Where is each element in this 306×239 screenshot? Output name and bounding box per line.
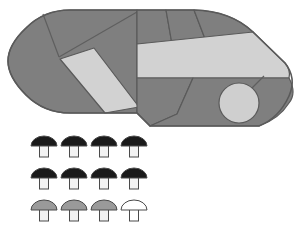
mushroom-icon[interactable] [91,168,117,189]
mushroom-cap-icon [31,168,57,178]
mushroom-stem-icon [130,209,139,221]
abstract-shape-diagram [0,0,306,239]
mushroom-cap-icon [121,136,147,146]
mushroom-stem-icon [70,177,79,189]
mushroom-cap-icon [91,200,117,210]
mushroom-cap-icon [61,200,87,210]
mushroom-cap-icon [31,136,57,146]
mushroom-icon[interactable] [91,136,117,157]
mushroom-cap-icon [121,168,147,178]
mushroom-icon[interactable] [61,136,87,157]
mushroom-icon[interactable] [31,200,57,221]
mushroom-stem-icon [70,209,79,221]
circle-hole [219,83,259,123]
mushroom-cap-icon [121,200,147,210]
mushroom-stem-icon [70,145,79,157]
legend-row [31,136,147,157]
mushroom-cap-icon [61,136,87,146]
mushroom-stem-icon [40,209,49,221]
legend-row [31,168,147,189]
mushroom-icon[interactable] [91,200,117,221]
mushroom-icon[interactable] [121,136,147,157]
mushroom-stem-icon [40,145,49,157]
mushroom-stem-icon [130,145,139,157]
mushroom-stem-icon [40,177,49,189]
mushroom-icon[interactable] [121,200,147,221]
mushroom-cap-icon [91,168,117,178]
mushroom-stem-icon [100,145,109,157]
mushroom-cap-icon [91,136,117,146]
screenshot-canvas: segmented-stadium-blob mushroom-icon-leg… [0,0,306,239]
mushroom-icon[interactable] [61,168,87,189]
mushroom-cap-icon [31,200,57,210]
mushroom-icon[interactable] [31,168,57,189]
mushroom-cap-icon [61,168,87,178]
mushroom-stem-icon [100,209,109,221]
legend-row [31,200,147,221]
mushroom-icon-legend [31,136,147,221]
mushroom-stem-icon [130,177,139,189]
main-shape-group [8,10,293,126]
mushroom-icon[interactable] [61,200,87,221]
mushroom-icon[interactable] [121,168,147,189]
mushroom-stem-icon [100,177,109,189]
mushroom-icon[interactable] [31,136,57,157]
